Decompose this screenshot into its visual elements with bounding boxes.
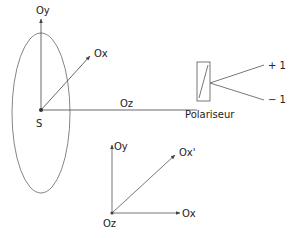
top-diagram: Oy Ox Oz S + 1 − 1 Polariseur: [12, 5, 286, 193]
origin-point: [110, 211, 113, 214]
beam-minus-one: [210, 83, 264, 100]
oz-origin-label: Oz: [103, 218, 116, 229]
bottom-diagram: Oy Ox' Ox Oz: [103, 141, 196, 229]
ox-prime-axis-arrow: [112, 155, 175, 213]
ox-label: Ox: [94, 48, 108, 59]
plus-one-label: + 1: [268, 60, 286, 71]
oz-label: Oz: [120, 98, 133, 109]
ox-prime-label: Ox': [179, 147, 196, 158]
polarization-diagram: Oy Ox Oz S + 1 − 1 Polariseur Oy Ox' Ox …: [0, 0, 292, 238]
beam-plus-one: [210, 65, 264, 83]
ox-label-bottom: Ox: [182, 208, 196, 219]
source-label: S: [36, 118, 42, 129]
ox-axis-arrow: [41, 56, 90, 110]
oy-label: Oy: [36, 5, 50, 16]
oy-label-bottom: Oy: [114, 141, 128, 152]
minus-one-label: − 1: [268, 94, 286, 105]
source-point: [39, 108, 43, 112]
polarizer-label: Polariseur: [185, 109, 235, 120]
